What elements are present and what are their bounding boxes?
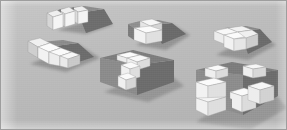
cube-right <box>253 67 266 78</box>
cube-front <box>234 38 246 51</box>
cube-right <box>65 11 75 27</box>
cube-right <box>78 10 88 24</box>
scene-canvas <box>0 0 287 130</box>
cube-right <box>53 14 63 30</box>
isometric-blocks-illustration <box>0 0 287 130</box>
block-gap <box>226 97 232 112</box>
